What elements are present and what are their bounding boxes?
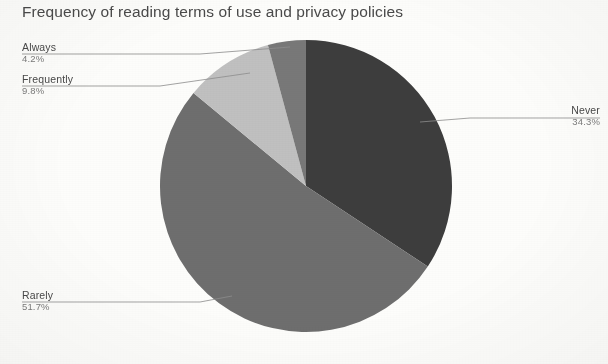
callout-never[interactable]: Never 34.3% (571, 104, 600, 128)
callout-frequently-value: 9.8% (22, 85, 73, 97)
callout-rarely[interactable]: Rarely 51.7% (22, 289, 53, 313)
pie-slices (160, 40, 452, 332)
callout-frequently-label: Frequently (22, 73, 73, 85)
callout-rarely-label: Rarely (22, 289, 53, 301)
callout-never-label: Never (571, 104, 600, 116)
pie-chart-figure: Frequency of reading terms of use and pr… (0, 0, 608, 364)
callout-never-value: 34.3% (571, 116, 600, 128)
callout-always-label: Always (22, 41, 56, 53)
callout-frequently[interactable]: Frequently 9.8% (22, 73, 73, 97)
leader-line-rarely (22, 296, 232, 302)
callout-rarely-value: 51.7% (22, 301, 53, 313)
pie-chart-svg (0, 0, 608, 364)
callout-always[interactable]: Always 4.2% (22, 41, 56, 65)
callout-always-value: 4.2% (22, 53, 56, 65)
